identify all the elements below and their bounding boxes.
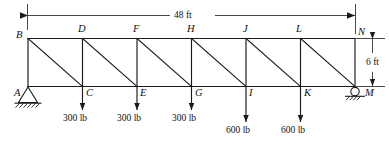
node-label-H: H xyxy=(187,24,195,35)
load-label-K: 600 lb xyxy=(281,126,305,136)
node-label-B: B xyxy=(16,30,22,41)
member-diagonal-H-I xyxy=(192,39,247,87)
roller-support-hatching xyxy=(346,97,360,101)
pin-support-hatching xyxy=(16,103,40,107)
load-label-G: 300 lb xyxy=(172,114,196,124)
node-label-K: K xyxy=(304,88,311,99)
node-label-A: A xyxy=(14,88,20,99)
member-diagonal-B-C xyxy=(28,39,83,87)
truss-members xyxy=(28,39,355,87)
node-label-I: I xyxy=(249,88,253,99)
member-diagonal-F-G xyxy=(137,39,192,87)
node-label-G: G xyxy=(195,88,203,99)
member-diagonal-J-K xyxy=(246,39,301,87)
node-label-D: D xyxy=(78,24,86,35)
roller-support-M xyxy=(345,87,365,100)
node-label-J: J xyxy=(243,24,248,35)
node-label-M: M xyxy=(365,88,374,99)
depth-dimension-label: 6 ft xyxy=(366,58,379,68)
load-label-E: 300 lb xyxy=(117,114,141,124)
member-diagonal-L-M xyxy=(301,39,356,87)
node-label-L: L xyxy=(296,24,302,35)
load-label-C: 300 lb xyxy=(63,114,87,124)
node-label-N: N xyxy=(358,27,365,38)
node-label-F: F xyxy=(133,24,139,35)
member-diagonal-D-E xyxy=(83,39,138,87)
truss-diagram-canvas xyxy=(0,0,389,146)
vertical-members xyxy=(28,39,355,87)
node-label-C: C xyxy=(86,88,93,99)
roller-support-circle xyxy=(351,87,359,95)
load-label-I: 600 lb xyxy=(226,126,250,136)
node-label-E: E xyxy=(140,88,146,99)
truss-diagram-figure: 48 ft 6 ft B D F H J L N A C E G I K M 3… xyxy=(0,0,389,146)
pin-support-triangle xyxy=(19,87,38,103)
span-dimension-label: 48 ft xyxy=(174,11,192,21)
